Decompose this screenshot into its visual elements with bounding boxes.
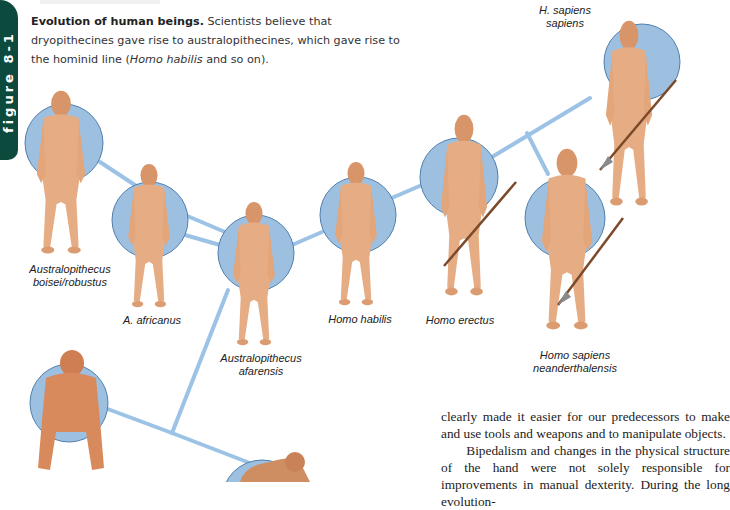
label-africanus: A. africanus [112,314,192,327]
label-line: sapiens [520,17,610,30]
label-neanderthalensis: Homo sapiens neanderthalensis [520,349,630,375]
label-boisei-robustus: Australopithecus boisei/robustus [20,263,120,289]
label-line: Homo habilis [320,313,400,326]
label-line: Australopithecus [211,352,311,365]
label-habilis: Homo habilis [320,313,400,326]
label-sapiens-sapiens: H. sapiens sapiens [520,4,610,30]
label-line: afarensis [211,365,311,378]
label-line: boisei/robustus [20,276,120,289]
figure-neanderthal [542,149,593,330]
label-line: Australopithecus [20,263,120,276]
label-line: A. africanus [112,314,192,327]
label-line: neanderthalensis [520,362,630,375]
figure-dryopithecine-left [38,350,104,470]
label-afarensis: Australopithecus afarensis [211,352,311,378]
body-text: clearly made it easier for our predecess… [441,408,730,510]
body-paragraph-1: clearly made it easier for our predecess… [441,408,730,442]
body-paragraph-2: Bipedalism and changes in the physical s… [441,442,730,510]
label-line: H. sapiens [520,4,610,17]
label-erectus: Homo erectus [420,314,500,327]
label-line: Homo erectus [420,314,500,327]
label-line: Homo sapiens [520,349,630,362]
